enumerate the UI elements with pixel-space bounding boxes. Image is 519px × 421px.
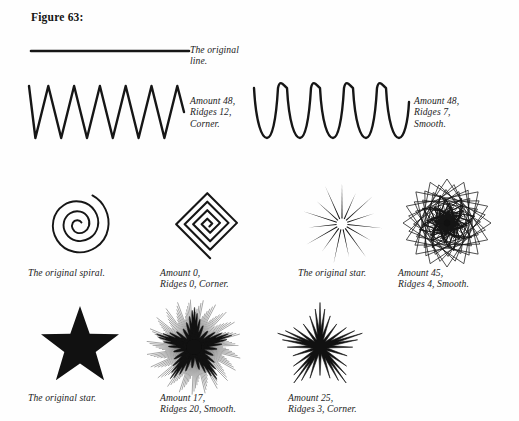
solid-star-label: The original star. — [28, 392, 96, 403]
corner-spiral-artwork — [158, 186, 258, 264]
figure-caption: Figure 63: — [31, 11, 84, 23]
rippled-star-label: Amount 17, Ridges 20, Smooth. — [160, 392, 236, 415]
rippled-star-artwork — [142, 303, 246, 391]
original-starburst-label: The original star. — [298, 267, 366, 278]
corner-spiral-label: Amount 0, Ridges 0, Corner. — [160, 267, 229, 290]
rosette-label: Amount 45, Ridges 4, Smooth. — [398, 267, 469, 290]
solid-star-artwork — [32, 306, 128, 388]
jagged-star-artwork — [268, 303, 372, 391]
original-line-label: The original line. — [190, 44, 239, 67]
wave-smooth-artwork — [254, 84, 409, 140]
rosette-artwork — [396, 178, 498, 268]
original-line-artwork — [30, 44, 190, 58]
jagged-star-label: Amount 25, Ridges 3, Corner. — [288, 392, 357, 415]
wave-smooth-label: Amount 48, Ridges 7, Smooth. — [414, 95, 459, 129]
original-spiral-label: The original spiral. — [28, 267, 105, 278]
figure-page: Figure 63: The original line. Amount 48,… — [0, 0, 519, 421]
original-starburst-artwork — [296, 182, 388, 266]
wave-corner-artwork — [29, 84, 184, 140]
original-spiral-artwork — [36, 186, 132, 262]
wave-corner-label: Amount 48, Ridges 12, Corner. — [190, 95, 235, 129]
